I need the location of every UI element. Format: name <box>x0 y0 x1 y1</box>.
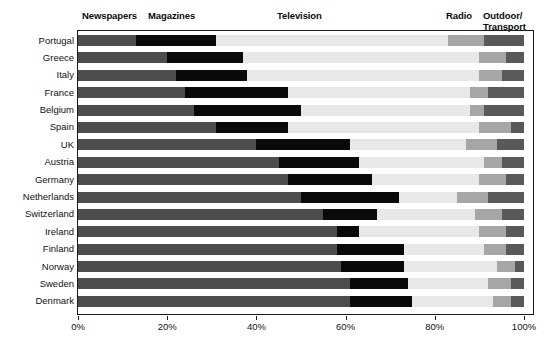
x-tick-label: 40% <box>247 321 266 332</box>
chart-row: Switzerland <box>0 207 554 224</box>
bar-segment-outdoor-transport <box>502 70 524 81</box>
row-label-ireland: Ireland <box>0 226 74 238</box>
bar-segment-newspapers <box>78 278 350 289</box>
bar-segment-television <box>399 192 457 203</box>
bar-segment-television <box>404 261 498 272</box>
bar-segment-radio <box>475 209 502 220</box>
chart-row: Netherlands <box>0 190 554 207</box>
chart-row: Norway <box>0 259 554 276</box>
x-tick-label: 0% <box>71 321 85 332</box>
bar-segment-radio <box>497 261 515 272</box>
bar-segment-television <box>350 139 466 150</box>
bar-segment-outdoor-transport <box>515 261 524 272</box>
stacked-bar <box>78 70 524 81</box>
bar-segment-outdoor-transport <box>488 87 524 98</box>
row-label-norway: Norway <box>0 261 74 273</box>
bar-segment-outdoor-transport <box>511 296 524 307</box>
stacked-bar <box>78 122 524 133</box>
bar-segment-outdoor-transport <box>502 209 524 220</box>
row-label-switzerland: Switzerland <box>0 208 74 220</box>
bar-segment-radio <box>479 226 506 237</box>
stacked-bar <box>78 174 524 185</box>
row-label-sweden: Sweden <box>0 278 74 290</box>
bar-segment-magazines <box>185 87 288 98</box>
x-tick <box>167 316 168 320</box>
bar-segment-magazines <box>167 52 243 63</box>
bar-segment-newspapers <box>78 244 337 255</box>
bar-segment-television <box>404 244 484 255</box>
bar-segment-outdoor-transport <box>502 157 524 168</box>
x-axis: 0%20%40%60%80%100% <box>0 316 554 340</box>
chart-row: Sweden <box>0 276 554 293</box>
row-label-austria: Austria <box>0 156 74 168</box>
bar-segment-outdoor-transport <box>484 105 524 116</box>
series-header-magazines: Magazines <box>148 10 195 21</box>
bar-segment-television <box>412 296 492 307</box>
stacked-bar <box>78 87 524 98</box>
bar-segment-magazines <box>256 139 350 150</box>
row-label-belgium: Belgium <box>0 104 74 116</box>
stacked-bar-chart: NewspapersMagazinesTelevisionRadioOutdoo… <box>0 0 554 348</box>
bar-segment-television <box>216 35 448 46</box>
chart-row: France <box>0 85 554 102</box>
bar-segment-newspapers <box>78 192 301 203</box>
bar-rows: PortugalGreeceItalyFranceBelgiumSpainUKA… <box>0 33 554 311</box>
bar-segment-radio <box>484 157 502 168</box>
chart-row: Finland <box>0 242 554 259</box>
stacked-bar <box>78 296 524 307</box>
row-label-greece: Greece <box>0 52 74 64</box>
stacked-bar <box>78 278 524 289</box>
row-label-finland: Finland <box>0 243 74 255</box>
stacked-bar <box>78 157 524 168</box>
bar-segment-television <box>301 105 470 116</box>
bar-segment-radio <box>484 244 506 255</box>
stacked-bar <box>78 192 524 203</box>
x-tick <box>256 316 257 320</box>
chart-row: UK <box>0 137 554 154</box>
stacked-bar <box>78 244 524 255</box>
bar-segment-outdoor-transport <box>506 52 524 63</box>
bar-segment-newspapers <box>78 35 136 46</box>
chart-row: Spain <box>0 120 554 137</box>
chart-row: Germany <box>0 172 554 189</box>
row-label-spain: Spain <box>0 121 74 133</box>
bar-segment-radio <box>448 35 484 46</box>
bar-segment-outdoor-transport <box>497 139 524 150</box>
x-tick-label: 60% <box>336 321 355 332</box>
stacked-bar <box>78 105 524 116</box>
stacked-bar <box>78 226 524 237</box>
stacked-bar <box>78 52 524 63</box>
bar-segment-television <box>247 70 479 81</box>
bar-segment-newspapers <box>78 87 185 98</box>
row-label-portugal: Portugal <box>0 35 74 47</box>
bar-segment-radio <box>479 70 501 81</box>
bar-segment-magazines <box>216 122 287 133</box>
bar-segment-radio <box>479 174 506 185</box>
chart-row: Austria <box>0 155 554 172</box>
row-label-netherlands: Netherlands <box>0 191 74 203</box>
stacked-bar <box>78 139 524 150</box>
bar-segment-magazines <box>337 244 404 255</box>
bar-segment-magazines <box>337 226 359 237</box>
chart-row: Portugal <box>0 33 554 50</box>
x-tick <box>524 316 525 320</box>
bar-segment-magazines <box>288 174 373 185</box>
row-label-germany: Germany <box>0 174 74 186</box>
bar-segment-radio <box>488 278 510 289</box>
bar-segment-outdoor-transport <box>506 226 524 237</box>
bar-segment-newspapers <box>78 261 341 272</box>
row-label-italy: Italy <box>0 69 74 81</box>
series-header-outdoor-transport: Outdoor/ Transport <box>483 10 526 32</box>
bar-segment-newspapers <box>78 105 194 116</box>
row-label-uk: UK <box>0 139 74 151</box>
bar-segment-magazines <box>301 192 399 203</box>
bar-segment-newspapers <box>78 139 256 150</box>
chart-row: Ireland <box>0 224 554 241</box>
bar-segment-outdoor-transport <box>511 122 524 133</box>
bar-segment-television <box>408 278 488 289</box>
bar-segment-television <box>288 122 480 133</box>
bar-segment-magazines <box>341 261 403 272</box>
bar-segment-newspapers <box>78 52 167 63</box>
bar-segment-newspapers <box>78 174 288 185</box>
bar-segment-newspapers <box>78 122 216 133</box>
